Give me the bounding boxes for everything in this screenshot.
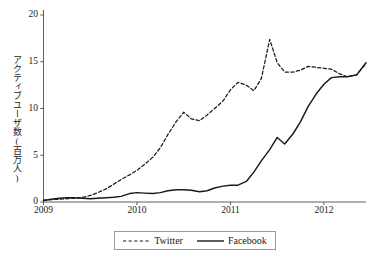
x-axis-tick-label: 2009 — [34, 206, 53, 216]
series-line-twitter — [44, 39, 367, 200]
legend-item-twitter[interactable]: Twitter — [123, 236, 183, 246]
series-lines — [44, 39, 367, 200]
x-axis-tick-label: 2012 — [314, 206, 333, 216]
legend-swatch-solid — [197, 237, 224, 245]
x-axis-tick-label: 2010 — [127, 206, 146, 216]
series-line-facebook — [44, 63, 367, 201]
chart-legend: Twitter Facebook — [114, 231, 276, 250]
axis-lines — [40, 10, 366, 205]
legend-label-twitter: Twitter — [154, 236, 183, 246]
legend-label-facebook: Facebook — [228, 236, 267, 246]
plot-area — [0, 0, 373, 255]
legend-swatch-dashed — [123, 237, 150, 245]
x-axis-tick-label: 2011 — [221, 206, 240, 216]
chart-container: アクティブユーザ数(百万人) 05101520 2009201020112012… — [0, 0, 373, 255]
legend-item-facebook[interactable]: Facebook — [197, 236, 267, 246]
